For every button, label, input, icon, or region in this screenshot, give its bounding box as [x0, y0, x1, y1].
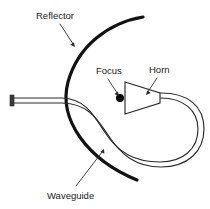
waveguide-inner-wall	[13, 93, 204, 167]
horn-shape	[125, 82, 160, 114]
focus-point-dot	[116, 94, 124, 102]
label-horn: Horn	[149, 64, 170, 75]
antenna-diagram-figure: Reflector Focus Horn Waveguide	[0, 0, 210, 209]
leader-reflector	[60, 24, 75, 47]
reflector-leader-line	[60, 24, 74, 45]
label-focus: Focus	[96, 65, 122, 76]
label-waveguide: Waveguide	[47, 190, 94, 201]
leader-focus	[108, 79, 119, 96]
leader-waveguide	[76, 149, 104, 186]
waveguide-leader-line	[76, 152, 103, 187]
waveguide-flange	[10, 95, 14, 106]
diagram-canvas: Reflector Focus Horn Waveguide	[0, 0, 210, 209]
label-reflector: Reflector	[36, 10, 74, 21]
focus-leader-line	[108, 79, 118, 94]
waveguide-outer-wall	[13, 98, 198, 162]
